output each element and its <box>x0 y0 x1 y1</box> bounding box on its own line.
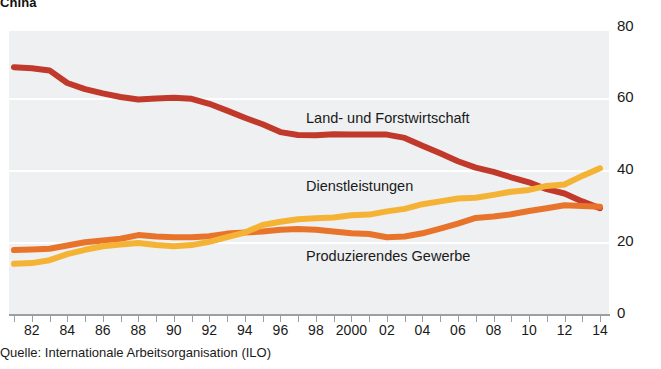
x-axis-tick <box>156 316 157 322</box>
x-axis-tick <box>50 316 51 322</box>
x-axis-label: 94 <box>237 322 253 338</box>
series-label-industry: Produzierendes Gewerbe <box>306 248 470 264</box>
x-axis-label: 14 <box>592 322 608 338</box>
chart-container: China 80 60 40 20 0 Land- und Forstwirts… <box>0 0 661 369</box>
x-axis-label: 98 <box>308 322 324 338</box>
x-axis-label: 04 <box>415 322 431 338</box>
x-axis-tick <box>511 316 512 322</box>
x-axis-tick <box>405 316 406 322</box>
x-axis-tick <box>263 316 264 322</box>
x-axis-tick <box>227 316 228 322</box>
x-axis-label: 82 <box>24 322 40 338</box>
x-axis-label: 06 <box>450 322 466 338</box>
x-axis-tick <box>14 316 15 322</box>
x-axis-label: 92 <box>202 322 218 338</box>
x-axis-tick <box>476 316 477 322</box>
x-axis-label: 2000 <box>336 322 367 338</box>
x-axis-tick <box>192 316 193 322</box>
x-axis-tick <box>582 316 583 322</box>
x-axis-tick <box>440 316 441 322</box>
x-axis-label: 96 <box>273 322 289 338</box>
series-label-services: Dienstleistungen <box>306 178 413 194</box>
x-axis-tick <box>334 316 335 322</box>
source-note: Quelle: Internationale Arbeitsorganisati… <box>0 345 271 360</box>
x-axis-label: 08 <box>486 322 502 338</box>
x-axis-tick <box>85 316 86 322</box>
x-axis-label: 90 <box>166 322 182 338</box>
x-axis-label: 84 <box>60 322 76 338</box>
x-axis-label: 12 <box>557 322 573 338</box>
x-axis-tick <box>547 316 548 322</box>
x-axis-tick <box>298 316 299 322</box>
x-axis-tick <box>121 316 122 322</box>
x-axis-line <box>9 314 610 316</box>
x-axis-label: 88 <box>131 322 147 338</box>
x-axis-tick <box>369 316 370 322</box>
x-axis-label: 10 <box>521 322 537 338</box>
x-axis-label: 02 <box>379 322 395 338</box>
x-axis-label: 86 <box>95 322 111 338</box>
series-label-agriculture: Land- und Forstwirtschaft <box>306 110 470 126</box>
